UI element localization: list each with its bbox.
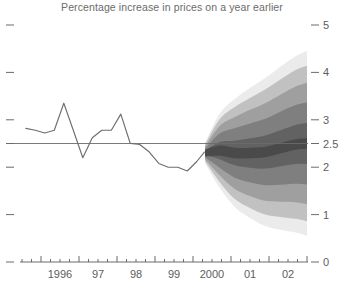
- chart-plot-area: 5432.5210 199697989920000102: [0, 0, 344, 291]
- y-tick-label: 5: [323, 19, 329, 31]
- x-tick-label: 1996: [48, 268, 72, 280]
- x-axis: 199697989920000102: [20, 256, 308, 280]
- y-tick-label: 1: [323, 209, 329, 221]
- x-tick-label: 98: [130, 268, 142, 280]
- fan-chart: Percentage increase in prices on a year …: [0, 0, 344, 291]
- x-tick-label: 2000: [200, 268, 224, 280]
- x-tick-label: 97: [92, 268, 104, 280]
- x-tick-label: 99: [168, 268, 180, 280]
- y-tick-label: 3: [323, 114, 329, 126]
- x-tick-label: 01: [244, 268, 256, 280]
- y-tick-label: 0: [323, 256, 329, 268]
- x-tick-label: 02: [282, 268, 294, 280]
- history-line-path: [26, 103, 205, 171]
- y-tick-label: 2: [323, 161, 329, 173]
- historical-inflation-line: [26, 103, 205, 171]
- y-tick-label: 2.5: [323, 138, 338, 150]
- y-tick-label: 4: [323, 66, 329, 78]
